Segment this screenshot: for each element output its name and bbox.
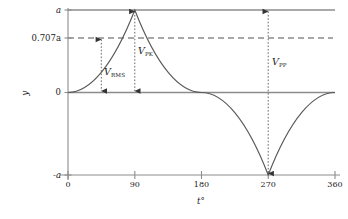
x-tick-label-180: 180: [194, 181, 209, 189]
y-tick-label-0: 0: [48, 88, 61, 97]
x-tick-label-0: 0: [65, 181, 70, 189]
x-tick-label-90: 90: [130, 181, 140, 189]
y-tick-label-a: a: [48, 6, 61, 15]
vrms-label: VRMS: [104, 67, 125, 77]
y-tick-label-minus-a: -a: [42, 171, 61, 180]
x-tick-label-270: 270: [261, 181, 276, 189]
y-axis-title: y: [21, 88, 30, 98]
vpp-label: VPP: [272, 57, 287, 67]
x-axis-title: t°: [197, 197, 205, 206]
x-tick-label-360: 360: [327, 181, 342, 189]
y-tick-label-0707a: 0.707a: [20, 34, 61, 43]
vpk-label: VPK: [138, 46, 153, 56]
sine-wave-figure: a 0.707a 0 -a y 0 90 180 270 360 t° VRMS…: [0, 0, 348, 219]
